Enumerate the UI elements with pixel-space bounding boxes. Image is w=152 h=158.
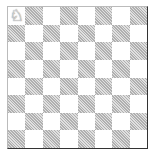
square-g8[interactable]: [112, 7, 129, 25]
square-b7[interactable]: [25, 25, 42, 43]
square-f4[interactable]: [95, 78, 112, 96]
square-c4[interactable]: [43, 78, 60, 96]
square-e8[interactable]: [78, 7, 95, 25]
square-a3[interactable]: [8, 95, 25, 113]
square-g4[interactable]: [112, 78, 129, 96]
square-b6[interactable]: [25, 42, 42, 60]
square-c6[interactable]: [43, 42, 60, 60]
square-c8[interactable]: [43, 7, 60, 25]
square-d4[interactable]: [60, 78, 77, 96]
square-g3[interactable]: [112, 95, 129, 113]
square-c2[interactable]: [43, 113, 60, 131]
square-f8[interactable]: [95, 7, 112, 25]
square-a1[interactable]: [8, 130, 25, 148]
square-b1[interactable]: [25, 130, 42, 148]
square-a8[interactable]: ♘: [8, 7, 25, 25]
square-g2[interactable]: [112, 113, 129, 131]
square-f7[interactable]: [95, 25, 112, 43]
square-h5[interactable]: [130, 60, 147, 78]
square-b8[interactable]: [25, 7, 42, 25]
square-c3[interactable]: [43, 95, 60, 113]
square-d3[interactable]: [60, 95, 77, 113]
square-e7[interactable]: [78, 25, 95, 43]
square-e2[interactable]: [78, 113, 95, 131]
square-h6[interactable]: [130, 42, 147, 60]
square-d2[interactable]: [60, 113, 77, 131]
square-a5[interactable]: [8, 60, 25, 78]
square-c1[interactable]: [43, 130, 60, 148]
square-e5[interactable]: [78, 60, 95, 78]
square-a6[interactable]: [8, 42, 25, 60]
square-h8[interactable]: [130, 7, 147, 25]
square-d6[interactable]: [60, 42, 77, 60]
square-e6[interactable]: [78, 42, 95, 60]
square-d1[interactable]: [60, 130, 77, 148]
square-d5[interactable]: [60, 60, 77, 78]
square-c5[interactable]: [43, 60, 60, 78]
chess-board: ♘: [7, 6, 148, 149]
square-b2[interactable]: [25, 113, 42, 131]
square-f2[interactable]: [95, 113, 112, 131]
square-e3[interactable]: [78, 95, 95, 113]
square-e1[interactable]: [78, 130, 95, 148]
square-b3[interactable]: [25, 95, 42, 113]
square-f6[interactable]: [95, 42, 112, 60]
white-knight-icon[interactable]: ♘: [10, 8, 24, 24]
square-a7[interactable]: [8, 25, 25, 43]
square-e4[interactable]: [78, 78, 95, 96]
square-b5[interactable]: [25, 60, 42, 78]
square-f3[interactable]: [95, 95, 112, 113]
square-g5[interactable]: [112, 60, 129, 78]
square-d7[interactable]: [60, 25, 77, 43]
square-d8[interactable]: [60, 7, 77, 25]
square-g1[interactable]: [112, 130, 129, 148]
square-c7[interactable]: [43, 25, 60, 43]
square-g7[interactable]: [112, 25, 129, 43]
square-a2[interactable]: [8, 113, 25, 131]
square-a4[interactable]: [8, 78, 25, 96]
square-h2[interactable]: [130, 113, 147, 131]
square-f5[interactable]: [95, 60, 112, 78]
square-h3[interactable]: [130, 95, 147, 113]
square-h4[interactable]: [130, 78, 147, 96]
square-f1[interactable]: [95, 130, 112, 148]
square-h7[interactable]: [130, 25, 147, 43]
square-g6[interactable]: [112, 42, 129, 60]
square-h1[interactable]: [130, 130, 147, 148]
square-b4[interactable]: [25, 78, 42, 96]
